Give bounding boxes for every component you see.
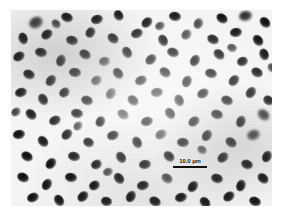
- cell: [198, 195, 213, 206]
- cell: [224, 135, 239, 149]
- cell: [229, 27, 242, 38]
- cell: [89, 74, 103, 88]
- cell: [57, 86, 71, 100]
- cell: [226, 43, 238, 54]
- cell: [72, 120, 85, 133]
- cell: [212, 47, 227, 62]
- cell: [250, 66, 265, 80]
- cell: [140, 15, 155, 30]
- cell: [196, 87, 211, 101]
- cell: [12, 129, 25, 140]
- cell: [216, 150, 231, 165]
- cell: [174, 192, 188, 204]
- cell: [44, 156, 59, 171]
- cell: [34, 47, 48, 59]
- cell: [192, 17, 205, 31]
- scale-bar-label: 10.0 µm: [172, 158, 208, 165]
- cell: [24, 107, 39, 122]
- cell: [120, 45, 134, 60]
- cell: [244, 85, 258, 100]
- cell: [50, 18, 63, 31]
- cell: [258, 15, 272, 30]
- cell: [140, 116, 154, 128]
- cell: [106, 31, 121, 46]
- cell: [220, 94, 235, 107]
- cell: [94, 114, 107, 128]
- cell: [90, 158, 104, 171]
- cell: [16, 171, 31, 184]
- cell: [206, 33, 221, 47]
- cell: [158, 65, 173, 79]
- cell: [40, 27, 55, 41]
- cell: [210, 108, 224, 120]
- cell: [65, 34, 79, 46]
- cell: [166, 46, 180, 59]
- cell: [48, 114, 63, 127]
- cell: [36, 134, 51, 149]
- cell: [222, 189, 237, 203]
- cell: [210, 172, 224, 185]
- cell: [251, 33, 265, 48]
- micrograph-figure: 10.0 µm: [0, 0, 282, 217]
- cell: [168, 11, 181, 22]
- cell: [114, 150, 128, 165]
- cell: [188, 53, 202, 68]
- cell: [136, 180, 150, 191]
- cell: [60, 11, 74, 24]
- cell: [104, 86, 118, 101]
- cell: [248, 195, 263, 206]
- cell: [22, 68, 37, 81]
- cell: [124, 189, 138, 204]
- cell: [17, 31, 29, 45]
- cell: [235, 178, 248, 192]
- cell: [236, 56, 249, 68]
- cell: [12, 50, 27, 64]
- cell: [26, 191, 40, 204]
- cell: [100, 196, 113, 206]
- cell: [27, 14, 45, 30]
- cell: [70, 108, 84, 119]
- cell: [177, 137, 190, 147]
- cell: [52, 193, 66, 206]
- cell: [260, 149, 272, 164]
- cell-field: [11, 10, 272, 206]
- cell: [179, 27, 193, 41]
- cell: [106, 129, 120, 141]
- cell: [148, 195, 163, 206]
- cell: [156, 33, 169, 48]
- cell: [238, 10, 253, 22]
- cell: [266, 62, 272, 75]
- cell: [160, 171, 175, 185]
- cell: [144, 52, 159, 67]
- cell: [154, 128, 169, 142]
- cell: [76, 189, 91, 204]
- cell: [151, 87, 164, 97]
- cell: [180, 74, 193, 89]
- cell: [186, 179, 201, 194]
- cell: [68, 67, 81, 78]
- cell: [196, 144, 209, 156]
- cell: [234, 114, 247, 129]
- cell: [240, 158, 254, 171]
- cell: [78, 48, 93, 62]
- cell: [44, 73, 59, 88]
- cell: [55, 53, 68, 67]
- cell: [102, 167, 114, 178]
- cell: [246, 128, 262, 142]
- cell: [112, 10, 125, 23]
- cell: [90, 14, 104, 26]
- cell: [215, 11, 230, 25]
- cell: [126, 93, 141, 108]
- scale-bar: 10.0 µm: [172, 158, 208, 168]
- cell: [154, 20, 166, 32]
- cell: [163, 106, 177, 121]
- cell: [261, 94, 272, 108]
- cell: [87, 179, 101, 192]
- cell: [255, 107, 271, 123]
- cell: [67, 151, 81, 163]
- cell: [11, 106, 22, 118]
- cell: [138, 159, 151, 170]
- cell: [60, 127, 75, 142]
- cell: [84, 25, 98, 39]
- scale-bar-line: [173, 166, 207, 168]
